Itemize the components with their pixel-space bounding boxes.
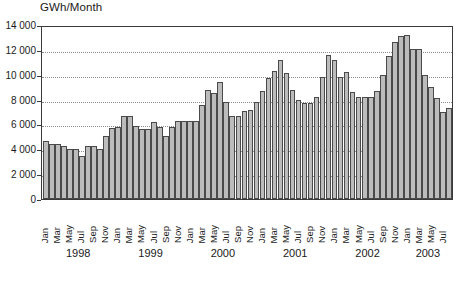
bar	[163, 136, 169, 199]
bar	[103, 136, 109, 199]
bar-chart: GWh/Month 02 0004 0006 0008 00010 00012 …	[0, 0, 463, 287]
x-axis-year-label: 2002	[355, 248, 379, 259]
y-axis-tick-label: 8 000	[11, 96, 36, 106]
x-axis-month-label: May	[281, 225, 291, 243]
bar	[217, 82, 223, 199]
bar	[356, 97, 362, 199]
bar	[266, 78, 272, 199]
bar	[139, 129, 145, 199]
x-axis-month-label: Nov	[100, 226, 110, 243]
x-axis-month-label: Sep	[378, 226, 388, 243]
x-axis-month-label: Nov	[390, 226, 400, 243]
y-axis-tick-label: 0	[30, 195, 36, 205]
bar	[362, 97, 368, 199]
y-axis-tick-label: 4 000	[11, 145, 36, 155]
x-axis-month-label: May	[426, 225, 436, 243]
x-axis-month-label: Jul	[293, 231, 303, 243]
y-axis-tick-label: 2 000	[11, 170, 36, 180]
bar	[374, 91, 380, 199]
bar-series	[42, 27, 452, 199]
x-axis-month-label: Jul	[366, 231, 376, 243]
bar	[145, 129, 151, 199]
x-axis-month-label: Nov	[317, 226, 327, 243]
bar	[368, 97, 374, 199]
x-axis-month-labels: JanMarMayJulSepNovJanMarMayJulSepNovJanM…	[41, 201, 453, 243]
bar	[386, 56, 392, 199]
x-axis-month-label: Nov	[173, 226, 183, 243]
bar	[43, 141, 49, 199]
bar	[49, 144, 55, 199]
x-axis-year-labels: 199819992000200120022003	[41, 248, 453, 266]
bar	[121, 116, 127, 199]
x-axis-month-label: Jan	[185, 228, 195, 243]
bar	[85, 146, 91, 199]
x-axis-month-label: Jul	[76, 231, 86, 243]
x-axis-month-label: Mar	[52, 227, 62, 243]
bar	[380, 75, 386, 199]
bar	[79, 156, 85, 200]
bar	[109, 128, 115, 199]
x-axis-month-label: Mar	[197, 227, 207, 243]
bar	[392, 42, 398, 199]
bar	[169, 127, 175, 199]
y-axis: 02 0004 0006 0008 00010 00012 00014 000	[0, 26, 41, 200]
bar	[326, 55, 332, 199]
bar	[223, 102, 229, 199]
bar	[248, 110, 254, 199]
bar	[229, 116, 235, 199]
bar	[187, 121, 193, 199]
bar	[55, 144, 61, 199]
x-axis-month-label: Sep	[233, 226, 243, 243]
x-axis-month-label: May	[64, 225, 74, 243]
bar	[61, 146, 67, 199]
bar	[350, 92, 356, 199]
bar	[242, 111, 248, 199]
bar	[193, 121, 199, 199]
x-axis-year-label: 1999	[138, 248, 162, 259]
x-axis-month-label: May	[354, 225, 364, 243]
x-axis-year-label: 2003	[416, 248, 440, 259]
x-axis-month-label: Mar	[414, 227, 424, 243]
bar	[410, 49, 416, 199]
y-axis-tick-label: 6 000	[11, 120, 36, 130]
bar	[127, 116, 133, 199]
x-axis-month-label: May	[136, 225, 146, 243]
bar	[157, 127, 163, 199]
x-axis-month-label: Jan	[329, 228, 339, 243]
x-axis-month-label: Mar	[341, 227, 351, 243]
x-axis-year-label: 2000	[211, 248, 235, 259]
bar	[344, 72, 350, 199]
bar	[254, 102, 260, 199]
bar	[422, 75, 428, 199]
bar	[308, 103, 314, 199]
bar	[205, 90, 211, 199]
x-axis-month-label: Sep	[161, 226, 171, 243]
x-axis-month-label: Jul	[149, 231, 159, 243]
bar	[181, 121, 187, 199]
bar	[278, 60, 284, 199]
bar	[332, 60, 338, 199]
x-axis-month-label: Mar	[269, 227, 279, 243]
x-axis-month-label: Mar	[124, 227, 134, 243]
x-axis-month-label: Jul	[438, 231, 448, 243]
bar	[73, 149, 79, 199]
bar	[338, 77, 344, 199]
x-axis-month-label: Jul	[221, 231, 231, 243]
x-axis-month-label: Jan	[257, 228, 267, 243]
bar	[199, 105, 205, 199]
bar	[290, 90, 296, 199]
x-axis-month-label: Sep	[88, 226, 98, 243]
y-axis-tick-label: 12 000	[5, 46, 36, 56]
bar	[296, 100, 302, 199]
bar	[416, 49, 422, 199]
bar	[428, 87, 434, 199]
bar	[440, 112, 446, 199]
bar	[133, 126, 139, 199]
bar	[320, 77, 326, 199]
x-axis-month-label: Jan	[40, 228, 50, 243]
x-axis-month-label: Jan	[112, 228, 122, 243]
bar	[434, 98, 440, 199]
x-axis-month-label: Nov	[245, 226, 255, 243]
bar	[115, 127, 121, 199]
bar	[302, 103, 308, 199]
